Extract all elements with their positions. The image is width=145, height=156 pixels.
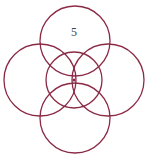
center-intersection-dot	[73, 79, 76, 82]
five-circle-diagram: 5	[0, 0, 145, 156]
circle-left	[4, 44, 76, 116]
number-label: 5	[71, 25, 77, 39]
